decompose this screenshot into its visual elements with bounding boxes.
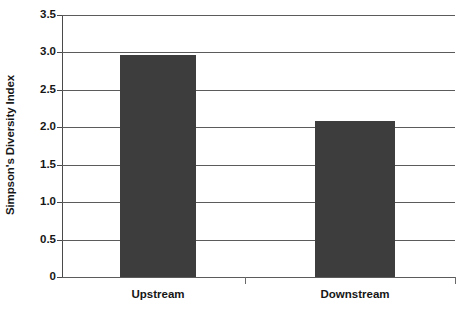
y-axis-tick-label: 2.0	[20, 122, 56, 134]
x-axis-tick-label: Upstream	[131, 288, 184, 300]
x-axis-tick-label-group: UpstreamDownstream	[62, 288, 455, 308]
gridline	[62, 52, 455, 53]
y-axis-tick-label: 1.5	[20, 159, 56, 171]
x-axis-tick-label: Downstream	[320, 288, 389, 300]
y-axis-title: Simpson's Diversity Index	[0, 0, 20, 290]
y-axis-tick-label: 3.0	[20, 47, 56, 59]
bar	[120, 55, 196, 277]
x-axis-tick-mark	[245, 277, 246, 284]
x-axis-tick-mark	[455, 277, 456, 284]
y-axis-tick-mark	[57, 165, 62, 166]
plot-area	[62, 15, 455, 277]
y-axis-tick-label-group: 3.53.02.52.01.51.00.50	[20, 0, 56, 316]
bar-chart: Simpson's Diversity Index 3.53.02.52.01.…	[0, 0, 467, 316]
y-axis-tick-mark	[57, 240, 62, 241]
gridline	[62, 15, 455, 16]
y-axis-tick-mark	[57, 127, 62, 128]
gridline	[62, 277, 455, 278]
y-axis-tick-label: 2.5	[20, 84, 56, 96]
y-axis-tick-mark	[57, 90, 62, 91]
y-axis-tick-mark	[57, 15, 62, 16]
y-axis-tick-mark	[57, 277, 62, 278]
y-axis-tick-mark	[57, 202, 62, 203]
y-axis-tick-label: 3.5	[20, 9, 56, 21]
y-axis-tick-label: 1.0	[20, 196, 56, 208]
y-axis-tick-label: 0.5	[20, 234, 56, 246]
y-axis-title-text: Simpson's Diversity Index	[4, 75, 16, 215]
y-axis-tick-label: 0	[20, 271, 56, 283]
y-axis-line	[62, 15, 63, 277]
y-axis-tick-mark	[57, 52, 62, 53]
bar	[315, 121, 395, 277]
